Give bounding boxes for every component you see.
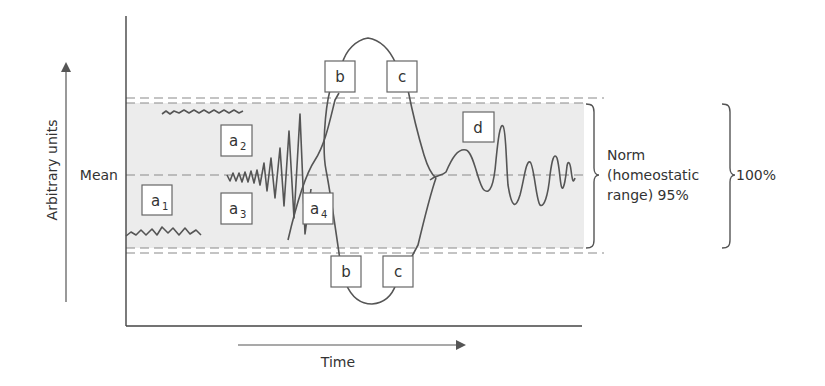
box-a4: a 4 [303,193,333,224]
total-brace-icon [722,104,735,248]
norm-brace-icon [586,104,599,248]
box-d: d [463,112,494,142]
svg-text:b: b [341,263,351,281]
total-label: 100% [736,167,776,183]
svg-text:2: 2 [240,141,246,152]
curve-b-top-loop [342,38,396,64]
mean-label: Mean [80,167,118,183]
svg-text:3: 3 [240,209,246,220]
y-axis-arrow-icon [61,62,71,302]
x-axis-arrow-icon [238,340,466,350]
y-axis-label: Arbitrary units [44,120,60,221]
svg-text:a: a [229,132,238,150]
svg-text:c: c [398,68,406,86]
box-a3: a 3 [221,193,252,224]
svg-text:a: a [151,192,160,210]
svg-text:d: d [473,119,483,137]
svg-text:a: a [229,200,238,218]
box-a2: a 2 [221,125,252,156]
svg-text:b: b [335,68,345,86]
box-c-top: c [387,61,417,92]
svg-text:a: a [310,200,319,218]
norm-label-line2: (homeostatic [607,167,699,183]
homeostasis-diagram: Arbitrary units Time Mean a 1 [0,0,825,386]
x-axis-label: Time [320,354,355,370]
svg-text:1: 1 [162,201,168,212]
norm-label-line1: Norm [607,147,645,163]
box-b-bottom: b [331,256,361,287]
box-a1: a 1 [142,185,172,215]
box-b-top: b [325,61,355,92]
svg-text:4: 4 [321,209,327,220]
box-c-bottom: c [383,256,413,287]
norm-label-line3: range) 95% [607,187,689,203]
svg-text:c: c [394,263,402,281]
